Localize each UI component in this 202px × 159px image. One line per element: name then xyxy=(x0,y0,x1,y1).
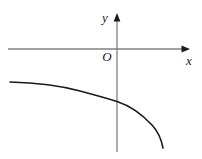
x-axis-label: x xyxy=(185,53,192,68)
figure-background xyxy=(0,0,202,159)
figure-canvas: y O x xyxy=(0,0,202,159)
coordinate-plane-figure: y O x xyxy=(0,0,202,159)
y-axis-label: y xyxy=(100,10,108,25)
origin-label: O xyxy=(102,49,112,64)
